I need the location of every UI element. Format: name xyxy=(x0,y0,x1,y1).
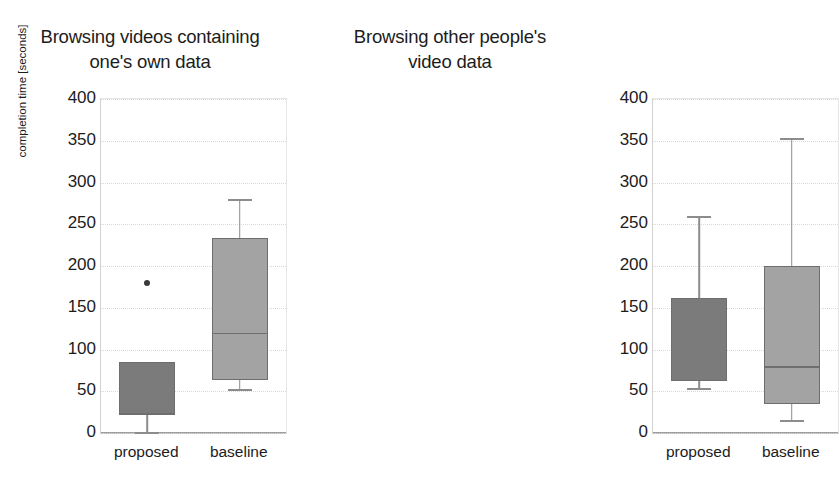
whisker-upper xyxy=(239,199,241,238)
y-tick-label: 350 xyxy=(596,130,648,150)
y-tick-label: 400 xyxy=(44,88,96,108)
y-tick-label: 100 xyxy=(44,339,96,359)
gridline xyxy=(101,433,286,434)
whisker-lower xyxy=(791,404,793,421)
whisker-cap-lower xyxy=(687,388,711,390)
x-axis-labels-right: proposed baseline xyxy=(652,443,837,461)
y-axis-ticks-right: 400350300250200150100500 xyxy=(596,88,648,442)
median-line-baseline xyxy=(212,333,268,334)
panel-title-own-data: Browsing videos containing one's own dat… xyxy=(0,24,300,74)
whisker-upper xyxy=(698,216,700,298)
gridline xyxy=(653,433,838,434)
chart-panel-own-data: Browsing videos containing one's own dat… xyxy=(0,0,300,491)
plot-area-other-people xyxy=(652,98,839,434)
whisker-cap-upper xyxy=(228,199,252,201)
y-tick-label: 200 xyxy=(44,255,96,275)
boxplot-baseline xyxy=(764,99,820,433)
whisker-lower xyxy=(239,380,241,388)
y-tick-label: 50 xyxy=(44,380,96,400)
median-line-proposed xyxy=(671,380,727,381)
y-tick-label: 300 xyxy=(596,172,648,192)
y-tick-label: 0 xyxy=(596,422,648,442)
y-tick-label: 250 xyxy=(44,213,96,233)
y-axis-ticks-left: 400350300250200150100500 xyxy=(44,88,96,442)
plot-area-own-data xyxy=(100,98,287,434)
panel-title-line2: video data xyxy=(300,49,600,74)
y-tick-label: 250 xyxy=(596,213,648,233)
whisker-lower xyxy=(146,415,148,433)
whisker-cap-upper xyxy=(780,138,804,140)
x-label-proposed: proposed xyxy=(100,443,193,461)
outlier-point xyxy=(144,280,150,286)
y-tick-label: 100 xyxy=(596,339,648,359)
median-line-proposed xyxy=(119,413,175,414)
median-line-baseline xyxy=(764,366,820,367)
y-tick-label: 300 xyxy=(44,172,96,192)
y-tick-label: 50 xyxy=(596,380,648,400)
panel-title-other-people: Browsing other people's video data xyxy=(300,24,600,74)
y-tick-label: 150 xyxy=(44,297,96,317)
whisker-cap-upper xyxy=(687,216,711,218)
y-axis-label: completion time [seconds] xyxy=(16,6,28,176)
panel-title-line1: Browsing other people's xyxy=(300,24,600,49)
boxplot-proposed xyxy=(671,99,727,433)
y-tick-label: 400 xyxy=(596,88,648,108)
box-rect-proposed xyxy=(119,362,175,415)
whisker-cap-lower xyxy=(135,432,159,434)
whisker-lower xyxy=(698,381,700,388)
panel-title-line2: one's own data xyxy=(0,49,300,74)
box-rect-proposed xyxy=(671,298,727,382)
y-tick-label: 200 xyxy=(596,255,648,275)
x-label-baseline: baseline xyxy=(745,443,838,461)
y-tick-label: 350 xyxy=(44,130,96,150)
y-tick-label: 150 xyxy=(596,297,648,317)
box-rect-baseline xyxy=(212,238,268,380)
whisker-upper xyxy=(791,138,793,266)
x-label-proposed: proposed xyxy=(652,443,745,461)
y-tick-label: 0 xyxy=(44,422,96,442)
panel-title-line1: Browsing videos containing xyxy=(0,24,300,49)
chart-panel-other-people: Browsing other people's video data 40035… xyxy=(300,0,600,491)
x-axis-labels-left: proposed baseline xyxy=(100,443,285,461)
boxplot-baseline xyxy=(212,99,268,433)
box-rect-baseline xyxy=(764,266,820,404)
whisker-cap-lower xyxy=(780,420,804,422)
x-label-baseline: baseline xyxy=(193,443,286,461)
whisker-cap-lower xyxy=(228,389,252,391)
boxplot-proposed xyxy=(119,99,175,433)
